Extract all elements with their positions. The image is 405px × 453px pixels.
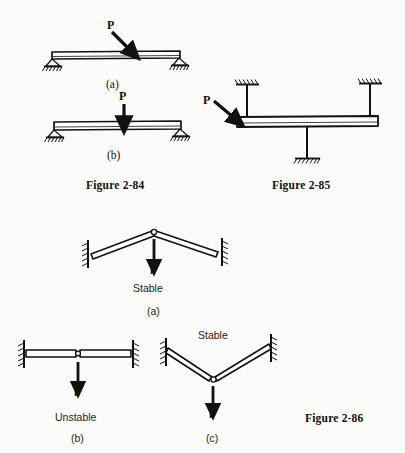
load-label-84b: P (119, 90, 126, 102)
bar-86a-right (154, 231, 218, 257)
pin-86b-center (76, 351, 81, 356)
load-label-86b: P (74, 387, 81, 398)
bar-86c-right (215, 344, 271, 381)
load-label-84a: P (107, 19, 114, 31)
bar-86b-left (26, 350, 76, 357)
stability-label-86a: Stable (133, 283, 163, 294)
subfigure-label-84b: (b) (107, 150, 120, 162)
pin-86a-apex (151, 229, 156, 234)
wall-86b-right (133, 340, 139, 368)
figure-caption-2-84: Figure 2-84 (86, 180, 145, 192)
load-arrow-85 (214, 101, 233, 117)
subfigure-label-84a: (a) (106, 79, 119, 91)
figure-2-84-subfigure-b (45, 104, 191, 142)
support-84b-left (45, 130, 65, 142)
figure-2-86-subfigure-c (160, 334, 277, 406)
bar-86c-left (166, 348, 212, 381)
bar-86b-right (80, 350, 131, 357)
column-85-bottom (294, 127, 320, 164)
wall-86a-left (82, 240, 88, 268)
support-84a-left (43, 59, 63, 71)
structural-diagrams-canvas (0, 0, 405, 453)
bar-86a-left (91, 231, 154, 259)
subfigure-label-86a: (a) (147, 306, 160, 317)
figure-sheet: P (a) P (b) Figure 2-84 P Figure 2-85 P … (0, 0, 405, 453)
hanger-85-right (358, 79, 382, 117)
beam-84b (54, 121, 181, 130)
hanger-85-left (235, 80, 259, 118)
stability-label-86c: Stable (198, 330, 228, 341)
wall-86a-right (222, 238, 228, 266)
wall-86c-right (271, 334, 277, 362)
wall-86c-left (160, 338, 166, 366)
stability-label-86b: Unstable (55, 412, 96, 423)
load-arrow-84a (112, 32, 129, 49)
pin-86c-apex (211, 377, 216, 382)
subfigure-label-86b: (b) (71, 433, 84, 444)
figure-2-86-subfigure-a (82, 229, 228, 268)
subfigure-label-86c: (c) (206, 433, 218, 444)
figure-caption-2-86: Figure 2-86 (305, 413, 364, 425)
support-84b-right (171, 129, 191, 141)
beam-85 (237, 116, 378, 127)
support-84a-right (170, 58, 190, 70)
figure-2-84-subfigure-a (43, 32, 190, 71)
figure-2-86-subfigure-b (18, 340, 139, 384)
load-label-86a: P (150, 265, 157, 276)
beam-84a (52, 51, 180, 59)
wall-86b-left (18, 340, 24, 368)
figure-caption-2-85: Figure 2-85 (272, 180, 331, 192)
load-label-85: P (203, 94, 210, 106)
figure-2-85 (214, 79, 382, 164)
load-label-86c: P (209, 409, 216, 420)
